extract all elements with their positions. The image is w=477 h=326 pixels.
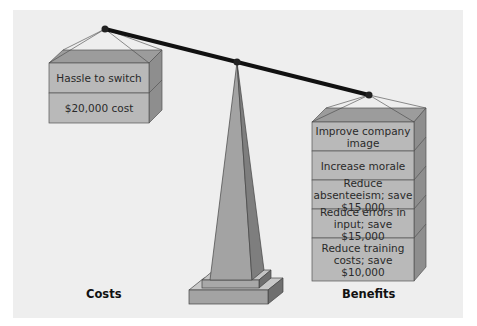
benefits-box-top (312, 108, 426, 122)
balance-scale-diagram: Hassle to switch $20,000 cost Improve co… (0, 0, 477, 326)
benefits-caption: Benefits (342, 287, 395, 301)
costs-item-label: $20,000 cost (49, 93, 149, 123)
costs-item-label: Hassle to switch (49, 63, 149, 93)
benefits-item-label: Improve company image (314, 122, 412, 151)
benefits-box-side (414, 108, 426, 281)
center-pivot-dot (234, 59, 241, 66)
benefits-item-label: Reduce errors in input; save $15,000 (312, 209, 414, 238)
costs-caption: Costs (86, 287, 122, 301)
costs-box-top (49, 50, 162, 63)
right-pivot-dot (366, 92, 373, 99)
benefits-item-label: Reduce training costs; save $10,000 (312, 238, 414, 281)
left-pivot-dot (102, 26, 109, 33)
